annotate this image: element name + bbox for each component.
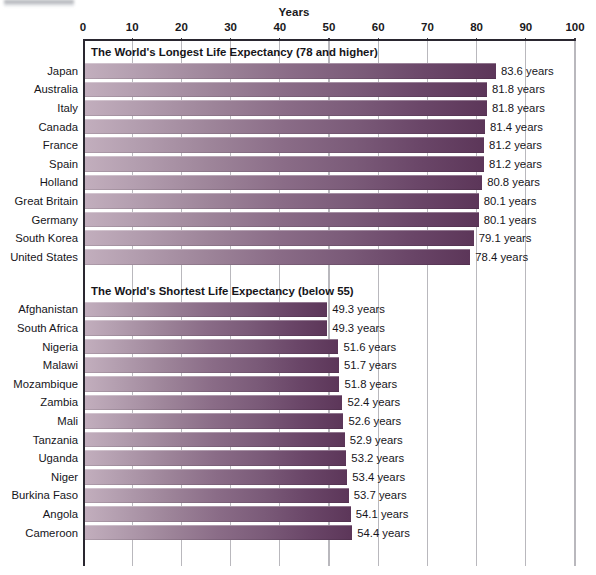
bar	[85, 320, 328, 336]
bar-value-label: 80.8 years	[487, 177, 540, 188]
bar	[85, 525, 353, 541]
bar-value-label: 54.1 years	[356, 509, 409, 520]
bar-value-label: 49.3 years	[332, 304, 385, 315]
x-tick-label-10: 10	[126, 21, 139, 33]
x-tick-label-100: 100	[565, 21, 584, 33]
bar-value-label: 52.9 years	[350, 435, 403, 446]
category-label: France	[0, 140, 78, 151]
bar	[85, 376, 340, 392]
bar	[85, 100, 487, 116]
category-label: Afghanistan	[0, 304, 78, 315]
bar-value-label: 81.2 years	[489, 159, 542, 170]
bar	[85, 357, 339, 373]
bar-value-label: 52.6 years	[348, 416, 401, 427]
x-tick-label-0: 0	[80, 21, 86, 33]
category-label: South Korea	[0, 233, 78, 244]
bar-value-label: 54.4 years	[357, 528, 410, 539]
category-label: Malawi	[0, 360, 78, 371]
bar	[85, 137, 485, 153]
bar-value-label: 79.1 years	[479, 233, 532, 244]
bar	[85, 249, 471, 265]
category-label: Zambia	[0, 397, 78, 408]
category-label: Uganda	[0, 453, 78, 464]
bar-value-label: 81.8 years	[492, 103, 545, 114]
x-tick-label-80: 80	[470, 21, 483, 33]
category-label: United States	[0, 252, 78, 263]
bar	[85, 469, 348, 485]
x-tick-label-90: 90	[519, 21, 532, 33]
bar-value-label: 81.4 years	[490, 122, 543, 133]
bar-value-label: 78.4 years	[475, 252, 528, 263]
bar-value-label: 80.1 years	[484, 215, 537, 226]
category-label: Holland	[0, 177, 78, 188]
bar-value-label: 53.4 years	[352, 472, 405, 483]
bar	[85, 119, 485, 135]
life-expectancy-bar-chart: Years 0102030405060708090100 The World's…	[0, 0, 596, 575]
x-tick-label-60: 60	[372, 21, 385, 33]
bar-value-label: 49.3 years	[332, 323, 385, 334]
bar-value-label: 81.8 years	[492, 84, 545, 95]
bar	[85, 413, 344, 429]
x-tick-label-30: 30	[224, 21, 237, 33]
category-label: Nigeria	[0, 342, 78, 353]
bar-value-label: 51.8 years	[344, 379, 397, 390]
bar	[85, 450, 347, 466]
bar-value-label: 52.4 years	[347, 397, 400, 408]
section-header-longest: The World's Longest Life Expectancy (78 …	[91, 47, 378, 58]
category-label: South Africa	[0, 323, 78, 334]
category-label: Cameroon	[0, 528, 78, 539]
bar-value-label: 83.6 years	[501, 66, 554, 77]
bar-value-label: 51.6 years	[343, 342, 396, 353]
bar	[85, 432, 345, 448]
bar-value-label: 80.1 years	[484, 196, 537, 207]
x-tick-label-20: 20	[175, 21, 188, 33]
category-label: Spain	[0, 159, 78, 170]
bar	[85, 302, 328, 318]
category-label: Australia	[0, 84, 78, 95]
bar	[85, 63, 496, 79]
x-tick-label-40: 40	[273, 21, 286, 33]
bar	[85, 82, 487, 98]
section-header-shortest: The World's Shortest Life Expectancy (be…	[91, 286, 354, 297]
y-axis-line	[83, 39, 85, 566]
category-label: Canada	[0, 122, 78, 133]
bar	[85, 175, 483, 191]
bar-value-label: 53.7 years	[354, 490, 407, 501]
category-label: Mali	[0, 416, 78, 427]
bar	[85, 339, 339, 355]
bar-value-label: 81.2 years	[489, 140, 542, 151]
x-tick-label-70: 70	[421, 21, 434, 33]
x-tick-label-50: 50	[323, 21, 336, 33]
gridline-100	[574, 41, 575, 566]
bar	[85, 395, 343, 411]
bar-value-label: 51.7 years	[344, 360, 397, 371]
gridline-90	[525, 41, 526, 566]
bar	[85, 230, 474, 246]
axis-title-label: Years	[278, 6, 309, 18]
bar	[85, 156, 485, 172]
category-label: Tanzania	[0, 435, 78, 446]
category-label: Japan	[0, 66, 78, 77]
category-label: Angola	[0, 509, 78, 520]
bar	[85, 212, 479, 228]
category-label: Italy	[0, 103, 78, 114]
category-label: Germany	[0, 215, 78, 226]
category-label: Burkina Faso	[0, 490, 78, 501]
bar	[85, 488, 349, 504]
category-label: Mozambique	[0, 379, 78, 390]
bar	[85, 506, 351, 522]
axis-title-years: Years	[0, 6, 596, 18]
category-label: Niger	[0, 472, 78, 483]
bar-value-label: 53.2 years	[351, 453, 404, 464]
x-axis-line	[83, 39, 575, 41]
bar	[85, 193, 479, 209]
category-label: Great Britain	[0, 196, 78, 207]
